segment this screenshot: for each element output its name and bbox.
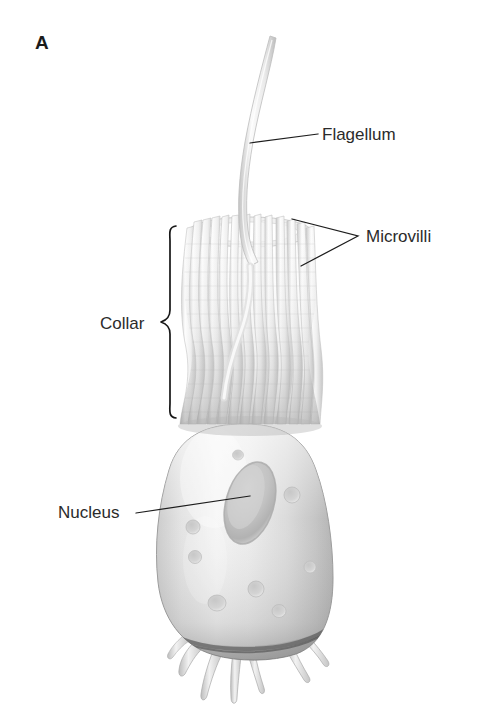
- choanoflagellate-illustration: A Flagellum Microvilli Collar Nucleus: [0, 0, 488, 724]
- callout-collar: Collar: [100, 226, 176, 418]
- collar-brace: [161, 226, 176, 418]
- collar-label: Collar: [100, 314, 145, 333]
- nucleus-label: Nucleus: [58, 503, 119, 522]
- flagellum-label: Flagellum: [322, 125, 396, 144]
- cell-body: [156, 424, 345, 672]
- microvilli-label: Microvilli: [366, 227, 431, 246]
- callout-flagellum: Flagellum: [250, 125, 396, 144]
- flagellum-leader-line: [250, 134, 318, 143]
- panel-letter: A: [35, 32, 49, 53]
- figure-root: A Flagellum Microvilli Collar Nucleus: [0, 0, 488, 724]
